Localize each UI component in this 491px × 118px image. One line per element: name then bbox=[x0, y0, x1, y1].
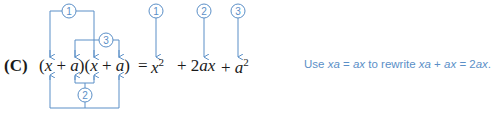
rhs-x-exponent: 2 bbox=[159, 56, 165, 68]
rhs-term-1: x2 bbox=[151, 56, 164, 78]
rhs-plus-2: + 2 bbox=[177, 56, 199, 75]
marker-label-2-right: 2 bbox=[201, 6, 207, 17]
rhs-plus: + bbox=[221, 58, 231, 77]
lhs-plus-2: + bbox=[98, 56, 116, 75]
note-mid: to rewrite bbox=[365, 58, 419, 70]
marker-label-3: 3 bbox=[103, 35, 109, 46]
note-eq-1: = bbox=[340, 58, 353, 70]
marker-label-1-right: 1 bbox=[153, 6, 159, 17]
note-ax-1: ax bbox=[353, 58, 365, 70]
lhs-expression: (x + a)(x + a) bbox=[39, 56, 130, 76]
note-xa-1: xa bbox=[328, 58, 340, 70]
note-prefix: Use bbox=[304, 58, 328, 70]
arrow-bracket-2-inner bbox=[75, 75, 94, 88]
paren-close-2: ) bbox=[124, 56, 130, 75]
rhs-a-exponent: 2 bbox=[243, 56, 249, 68]
note-ax-3: ax bbox=[476, 58, 488, 70]
part-label: (C) bbox=[4, 56, 28, 75]
rhs-term-3: + a2 bbox=[221, 56, 249, 78]
rhs-x: x bbox=[151, 58, 159, 77]
marker-label-1: 1 bbox=[66, 6, 72, 17]
note-xa-2: xa bbox=[419, 58, 431, 70]
marker-label-3-right: 3 bbox=[235, 6, 241, 17]
arrow-bracket-1 bbox=[50, 11, 94, 58]
lhs-plus-1: + bbox=[52, 56, 70, 75]
lhs-a-1: a bbox=[70, 56, 79, 75]
note-plus: + bbox=[431, 58, 444, 70]
marker-label-2: 2 bbox=[82, 90, 88, 101]
rhs-ax: ax bbox=[199, 56, 215, 75]
equals-symbol: = bbox=[138, 56, 148, 75]
note-eq-2: = 2 bbox=[456, 58, 476, 70]
rhs-term-2: + 2ax bbox=[177, 56, 215, 76]
note-ax-2: ax bbox=[444, 58, 456, 70]
equation-label: (C) bbox=[4, 56, 28, 76]
lhs-x-2: x bbox=[90, 56, 98, 75]
explanation-note: Use xa = ax to rewrite xa + ax = 2ax. bbox=[304, 58, 491, 70]
equals-sign: = bbox=[138, 56, 148, 76]
